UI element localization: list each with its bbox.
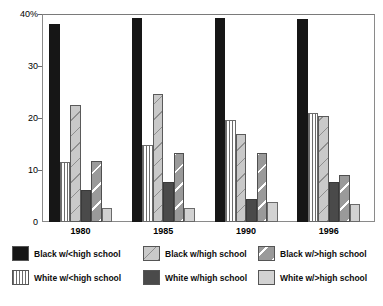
bar bbox=[60, 162, 71, 222]
legend-item: White w/high school bbox=[143, 270, 247, 285]
bar bbox=[184, 208, 195, 222]
bar bbox=[153, 94, 164, 222]
legend-swatch-icon bbox=[258, 246, 275, 261]
legend-swatch-icon bbox=[143, 246, 160, 261]
x-tick-label: 1980 bbox=[70, 226, 90, 236]
y-tick-label: 20 bbox=[28, 114, 38, 123]
legend-item: Black w/<high school bbox=[12, 246, 121, 261]
bar bbox=[308, 113, 319, 222]
bar bbox=[267, 202, 278, 222]
legend-item: Black w/>high school bbox=[258, 246, 367, 261]
legend-item: Black w/high school bbox=[143, 246, 247, 261]
legend: Black w/<high school Black w/high school… bbox=[0, 244, 383, 294]
bar bbox=[102, 208, 113, 222]
bar bbox=[318, 116, 329, 222]
bar-group bbox=[126, 14, 209, 222]
bar bbox=[132, 18, 143, 222]
bar bbox=[297, 19, 308, 222]
y-axis: 40% 30 20 10 0 bbox=[0, 0, 42, 232]
legend-label: Black w/>high school bbox=[280, 249, 367, 259]
bar-group bbox=[43, 14, 126, 222]
legend-label: Black w/<high school bbox=[34, 249, 121, 259]
legend-swatch-icon bbox=[12, 246, 29, 261]
bar bbox=[236, 134, 247, 222]
bar bbox=[174, 153, 185, 222]
bar-chart: 40% 30 20 10 0 1980198519901996 Black w/… bbox=[0, 0, 383, 306]
legend-label: White w/<high school bbox=[34, 273, 121, 283]
legend-item: White w/>high school bbox=[258, 270, 367, 285]
legend-swatch-icon bbox=[143, 270, 160, 285]
y-tick-label: 40% bbox=[20, 10, 38, 19]
legend-item: White w/<high school bbox=[12, 270, 121, 285]
bar bbox=[142, 145, 153, 222]
legend-swatch-icon bbox=[258, 270, 275, 285]
x-tick-label: 1996 bbox=[319, 226, 339, 236]
legend-label: Black w/high school bbox=[165, 249, 247, 259]
x-tick-label: 1990 bbox=[236, 226, 256, 236]
bar bbox=[257, 153, 268, 222]
bar bbox=[81, 190, 92, 222]
bar-group bbox=[291, 14, 374, 222]
bar bbox=[339, 175, 350, 222]
legend-label: White w/high school bbox=[165, 273, 247, 283]
y-tick-label: 10 bbox=[28, 166, 38, 175]
y-tick-label: 30 bbox=[28, 62, 38, 71]
bar bbox=[246, 199, 257, 222]
bar bbox=[49, 24, 60, 222]
bar bbox=[215, 18, 226, 222]
y-tick-label: 0 bbox=[33, 218, 38, 227]
bar bbox=[163, 182, 174, 222]
bar bbox=[225, 120, 236, 222]
legend-label: White w/>high school bbox=[280, 273, 367, 283]
legend-swatch-icon bbox=[12, 270, 29, 285]
bars-layer bbox=[43, 14, 374, 222]
bar bbox=[91, 161, 102, 222]
bar-group bbox=[209, 14, 292, 222]
bar bbox=[329, 182, 340, 222]
plot-area: 40% 30 20 10 0 1980198519901996 bbox=[0, 0, 383, 232]
x-tick-label: 1985 bbox=[153, 226, 173, 236]
bar bbox=[350, 204, 361, 222]
bar bbox=[70, 105, 81, 222]
